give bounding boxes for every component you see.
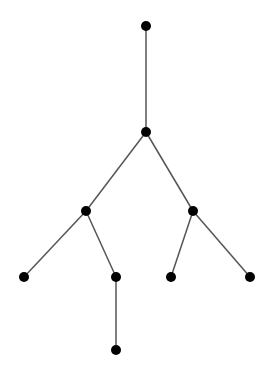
tree-edge — [24, 211, 86, 277]
tree-nodes — [19, 21, 255, 355]
tree-edge — [86, 211, 116, 277]
tree-node — [166, 272, 176, 282]
tree-node — [141, 127, 151, 137]
tree-edge — [171, 211, 193, 277]
tree-node — [188, 206, 198, 216]
tree-node — [141, 21, 151, 31]
tree-node — [245, 272, 255, 282]
tree-node — [81, 206, 91, 216]
tree-edge — [86, 132, 146, 211]
tree-edge — [193, 211, 250, 277]
tree-node — [111, 345, 121, 355]
tree-edges — [24, 26, 250, 350]
tree-diagram — [0, 0, 269, 384]
tree-node — [111, 272, 121, 282]
tree-node — [19, 272, 29, 282]
tree-edge — [146, 132, 193, 211]
